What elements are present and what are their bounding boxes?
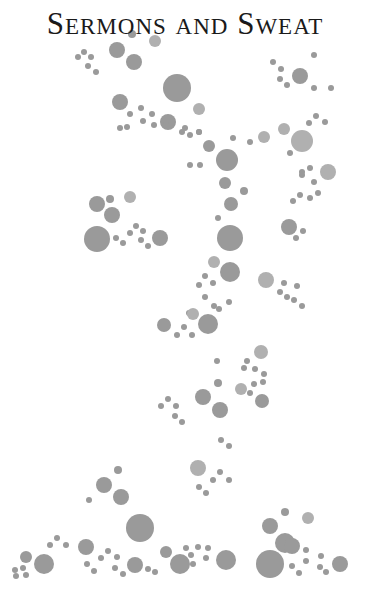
decorative-dot [188, 552, 194, 558]
decorative-dot [278, 66, 284, 72]
decorative-dot [93, 69, 99, 75]
decorative-dot [138, 105, 144, 111]
decorative-dot [218, 437, 224, 443]
decorative-dot [112, 94, 128, 110]
decorative-dot [127, 557, 143, 573]
decorative-dot [214, 358, 220, 364]
decorative-dot [290, 198, 296, 204]
decorative-dot [311, 179, 317, 185]
decorative-dot [193, 103, 205, 115]
decorative-dot [284, 82, 290, 88]
decorative-dot [63, 542, 69, 548]
decorative-dot [306, 120, 312, 126]
decorative-dot [198, 314, 218, 334]
decorative-dot [210, 477, 216, 483]
decorative-dot [117, 125, 123, 131]
decorative-dot [120, 571, 126, 577]
decorative-dot [187, 162, 193, 168]
decorative-dot [104, 207, 120, 223]
title-word-2: AND [176, 14, 229, 39]
decorative-dot [252, 366, 258, 372]
decorative-dot [244, 358, 250, 364]
decorative-dot [289, 563, 295, 569]
decorative-dot [303, 558, 309, 564]
decorative-dot [294, 283, 300, 289]
decorative-dot [292, 68, 308, 84]
decorative-dot [212, 402, 228, 418]
decorative-dot [34, 554, 54, 574]
decorative-dot [219, 177, 231, 189]
decorative-dot [84, 226, 110, 252]
decorative-dot [315, 190, 321, 196]
decorative-dot [152, 230, 168, 246]
decorative-dot [278, 123, 290, 135]
decorative-dot [20, 551, 32, 563]
decorative-dot [145, 243, 151, 249]
decorative-dot [317, 564, 323, 570]
decorative-dot [226, 477, 232, 483]
decorative-dot [174, 332, 180, 338]
decorative-dot [260, 379, 266, 385]
decorative-dot [126, 514, 154, 542]
decorative-dot [78, 539, 94, 555]
decorative-dot [281, 219, 297, 235]
decorative-dot [165, 396, 171, 402]
decorative-dot [247, 139, 253, 145]
decorative-dot [300, 228, 306, 234]
decorative-dot [127, 111, 133, 117]
decorative-dot [195, 544, 201, 550]
decorative-dot [296, 570, 302, 576]
decorative-dot [182, 125, 188, 131]
decorative-dot [88, 54, 94, 60]
decorative-dot [149, 111, 155, 117]
decorative-dot [216, 550, 236, 570]
decorative-dot [297, 192, 303, 198]
decorative-dot [224, 197, 238, 211]
decorative-dot [133, 223, 139, 229]
decorative-dot [332, 556, 348, 572]
decorative-dot [89, 196, 105, 212]
decorative-dot [170, 554, 190, 574]
decorative-dot [163, 74, 191, 102]
decorative-dot [318, 553, 324, 559]
decorative-dot [157, 318, 171, 332]
decorative-dot [124, 191, 136, 203]
decorative-dot [173, 403, 179, 409]
decorative-dot [140, 228, 146, 234]
decorative-dot [203, 555, 209, 561]
decorative-dot [328, 85, 334, 91]
decorative-dot [84, 561, 90, 567]
decorative-dot [75, 54, 81, 60]
decorative-dot [217, 225, 243, 251]
decorative-dot [140, 118, 146, 124]
decorative-dot [195, 389, 211, 405]
decorative-dot [258, 131, 270, 143]
decorative-dot [241, 365, 247, 371]
cover-title: SERMONS AND SWEAT [0, 6, 370, 45]
decorative-dot [293, 235, 299, 241]
decorative-dot [120, 240, 126, 246]
decorative-dot [179, 419, 185, 425]
decorative-dot [124, 124, 130, 130]
decorative-dot [151, 122, 157, 128]
decorative-dot [114, 554, 120, 560]
decorative-dot [261, 371, 267, 377]
decorative-dot [214, 379, 222, 387]
decorative-dot [313, 113, 319, 119]
decorative-dot [96, 477, 112, 493]
dot-pattern [0, 0, 370, 600]
decorative-dot [216, 306, 222, 312]
decorative-dot [172, 413, 178, 419]
decorative-dot [307, 195, 313, 201]
decorative-dot [98, 555, 104, 561]
decorative-dot [81, 49, 87, 55]
decorative-dot [12, 567, 18, 573]
decorative-dot [262, 518, 278, 534]
decorative-dot [247, 390, 253, 396]
decorative-dot [47, 542, 53, 548]
decorative-dot [127, 230, 133, 236]
decorative-dot [113, 235, 119, 241]
decorative-dot [320, 164, 336, 180]
title-word-3: SWEAT [237, 6, 323, 41]
title-word-1: SERMONS [47, 6, 167, 41]
